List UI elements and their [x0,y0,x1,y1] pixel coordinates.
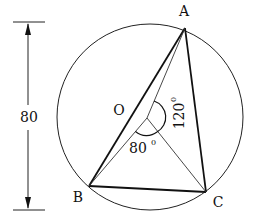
point-label-o: O [113,102,124,118]
diameter-dimension: 80 [13,22,45,210]
triangle-abc [89,28,206,192]
angle-label-aoc: 120 0 [169,97,187,129]
side-ca [185,28,206,192]
geometry-diagram: 80 80 0 120 0 A B C O [0,0,254,223]
side-bc [89,186,206,192]
angle-label-boc: 80 0 [129,138,156,156]
svg-text:120: 120 [171,103,187,130]
angle-arc-boc [136,132,158,136]
circumcircle [57,24,243,210]
arrow-up-icon [25,23,31,35]
arrow-down-icon [25,197,31,209]
dimension-label: 80 [20,109,38,125]
point-label-c: C [213,194,224,210]
svg-text:0: 0 [169,97,178,102]
point-label-a: A [178,3,190,19]
angle-arc-aoc [154,101,166,132]
point-label-b: B [73,189,83,205]
svg-text:80: 80 [129,140,147,156]
svg-text:0: 0 [151,138,156,147]
